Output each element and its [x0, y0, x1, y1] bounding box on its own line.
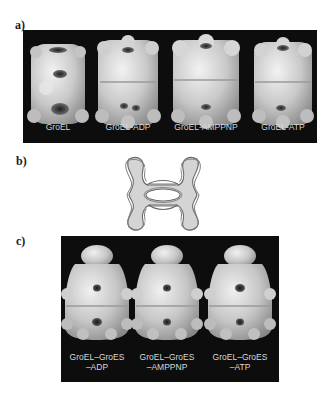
caption-groel-amppnp: GroEL-AMPPNP: [174, 122, 237, 132]
caption-groel: GroEL: [46, 122, 71, 132]
caption-groel-groes-amppnp: GroEL–GroES –AMPPNP: [140, 352, 195, 372]
molecule-groel-groes-amppnp: [131, 245, 203, 340]
panel-c-label: c): [16, 234, 25, 249]
panel-a-image: GroEL GroEL-ADP GroEL-AMPPNP GroEL-ATP: [23, 30, 317, 143]
panel-b-label: b): [16, 154, 27, 169]
molecule-groel-groes-atp: [204, 245, 276, 340]
caption-groel-groes-atp: GroEL–GroES –ATP: [213, 352, 268, 372]
caption-line-1: GroEL–GroES: [213, 352, 268, 362]
caption-groel-atp: GroEL-ATP: [261, 122, 304, 132]
molecule-groel: [27, 44, 89, 124]
caption-line-2: –ADP: [70, 362, 125, 372]
molecule-groel-atp: [252, 37, 314, 129]
caption-line-1: GroEL–GroES: [70, 352, 125, 362]
panel-b-cross-section-diagram: [123, 155, 203, 233]
caption-line-2: –AMPPNP: [140, 362, 195, 372]
molecule-groel-adp: [95, 35, 161, 129]
caption-groel-adp: GroEL-ADP: [106, 122, 151, 132]
molecule-groel-amppnp: [171, 34, 241, 129]
caption-line-2: –ATP: [213, 362, 268, 372]
caption-groel-groes-adp: GroEL–GroES –ADP: [70, 352, 125, 372]
panel-c-image: GroEL–GroES –ADP GroEL–GroES –AMPPNP Gro…: [61, 236, 279, 382]
caption-line-1: GroEL–GroES: [140, 352, 195, 362]
molecule-groel-groes-adp: [61, 245, 133, 340]
